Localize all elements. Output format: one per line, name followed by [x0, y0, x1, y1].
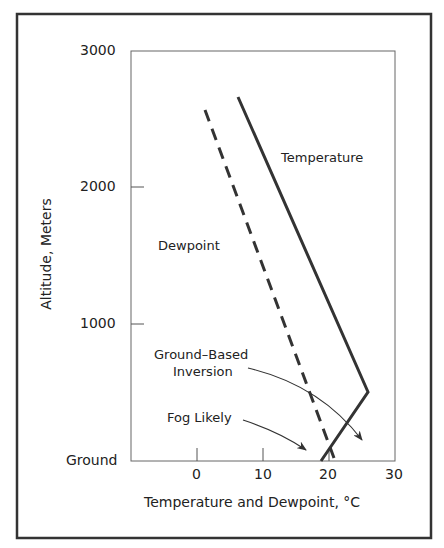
inversion-label-line1: Ground–Based	[154, 347, 248, 362]
plot-frame	[131, 51, 395, 461]
y-tick-label-3000: 3000	[80, 42, 116, 58]
y-axis-title: Altitude, Meters	[38, 198, 54, 309]
dewpoint-label: Dewpoint	[158, 238, 220, 253]
x-tick-label-30: 30	[385, 466, 403, 482]
fog-label: Fog Likely	[167, 410, 232, 425]
y-tick-label-2000: 2000	[80, 178, 116, 194]
inversion-label-line2: Inversion	[173, 364, 233, 379]
x-axis-title: Temperature and Dewpoint, °C	[144, 494, 360, 510]
x-tick-label-20: 20	[319, 466, 337, 482]
x-tick-label-10: 10	[254, 466, 272, 482]
y-tick-label-1000: 1000	[80, 315, 116, 331]
y-tick-label-ground: Ground	[66, 452, 118, 468]
fog-arrow	[243, 420, 306, 450]
temperature-label: Temperature	[281, 150, 363, 165]
x-tick-label-0: 0	[192, 466, 201, 482]
